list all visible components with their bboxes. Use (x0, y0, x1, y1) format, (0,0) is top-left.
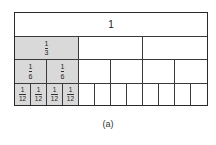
cell-sixth-shaded: 1 6 (15, 59, 47, 83)
figure-caption: (a) (0, 119, 216, 129)
cell-sixth (143, 59, 175, 83)
fraction-one-twelfth: 1 12 (19, 87, 26, 103)
fraction-one-twelfth: 1 12 (51, 87, 58, 103)
cell-twelfth-shaded: 1 12 (47, 83, 63, 105)
cell-twelfth (175, 83, 191, 105)
fraction-strip-diagram: 1 1 3 1 6 1 6 (14, 12, 208, 106)
cell-sixth (175, 59, 207, 83)
cell-twelfth (191, 83, 207, 105)
fraction-one-sixth: 1 6 (61, 63, 65, 80)
cell-twelfth-shaded: 1 12 (15, 83, 31, 105)
fraction-one-third: 1 3 (45, 40, 49, 57)
row-thirds: 1 3 (15, 36, 207, 59)
fraction-one-twelfth: 1 12 (35, 87, 42, 103)
cell-twelfth (159, 83, 175, 105)
label-one: 1 (108, 19, 114, 30)
fraction-bar (29, 71, 33, 72)
cell-twelfth (143, 83, 159, 105)
cell-twelfth (95, 83, 111, 105)
cell-twelfth-shaded: 1 12 (63, 83, 79, 105)
cell-third-shaded: 1 3 (15, 36, 79, 59)
cell-third (79, 36, 143, 59)
cell-twelfth (79, 83, 95, 105)
cell-third (143, 36, 207, 59)
cell-sixth-shaded: 1 6 (47, 59, 79, 83)
row-twelfths: 1 12 1 12 1 12 1 12 (15, 83, 207, 105)
cell-twelfth-shaded: 1 12 (31, 83, 47, 105)
cell-twelfth (127, 83, 143, 105)
cell-sixth (111, 59, 143, 83)
fraction-bar (61, 71, 65, 72)
fraction-one-twelfth: 1 12 (67, 87, 74, 103)
cell-twelfth (111, 83, 127, 105)
fraction-one-sixth: 1 6 (29, 63, 33, 80)
fraction-bar (45, 48, 49, 49)
row-sixths: 1 6 1 6 (15, 59, 207, 83)
row-whole: 1 (15, 13, 207, 36)
cell-sixth (79, 59, 111, 83)
cell-whole: 1 (15, 13, 207, 36)
